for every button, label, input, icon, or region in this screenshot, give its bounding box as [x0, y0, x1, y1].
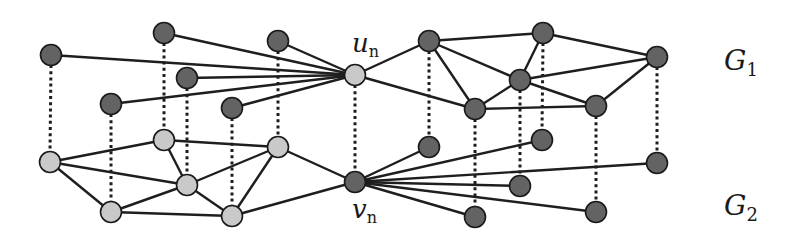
- g2-node-v-n: [345, 172, 366, 193]
- label-g1: G1: [724, 44, 758, 80]
- g1-node-l1: [586, 96, 607, 117]
- g2-node-h2: [532, 130, 553, 151]
- g2-node-j2: [510, 176, 531, 197]
- g1-node-e1: [101, 94, 122, 115]
- g1-node-j1: [510, 70, 531, 91]
- g2-node-a2: [40, 152, 61, 173]
- g1-edge-u_n-k1: [355, 75, 475, 109]
- g2-node-b2: [154, 130, 175, 151]
- g1-node-u-n: [345, 65, 366, 86]
- g2-edge-a2-d2: [50, 162, 187, 185]
- g1-node-c1: [268, 31, 289, 52]
- g2-node-g2: [419, 137, 440, 158]
- g2-edge-v_n-g2: [355, 147, 429, 182]
- g1-node-i1: [647, 47, 668, 68]
- g1-node-h1: [533, 23, 554, 44]
- g1-node-g1: [419, 31, 440, 52]
- label-v-n: vn: [352, 194, 377, 227]
- g2-edge-e2-f2: [111, 212, 232, 216]
- g1-node-k1: [465, 99, 486, 120]
- g1-edge-j1-i1: [520, 57, 657, 80]
- g1-node-d1: [177, 68, 198, 89]
- g1-edge-j1-l1: [520, 80, 596, 106]
- label-g2: G2: [724, 189, 758, 225]
- g2-edge-b2-c2: [164, 140, 278, 147]
- alignment-link-a1-a2: [50, 65, 51, 152]
- g2-edge-a2-b2: [50, 140, 164, 162]
- g1-edge-f1-u_n: [232, 75, 355, 108]
- g1-node-a1: [41, 45, 62, 66]
- g1-edge-k1-l1: [475, 106, 596, 109]
- graph-alignment-diagram: un vn G1 G2: [0, 0, 792, 245]
- g2-node-i2: [647, 153, 668, 174]
- g1-edge-h1-i1: [543, 33, 657, 57]
- g2-node-f2: [222, 206, 243, 227]
- g2-edge-d2-e2: [111, 185, 187, 212]
- g1-node-f1: [222, 98, 243, 119]
- g1-node-b1: [154, 23, 175, 44]
- g2-node-c2: [268, 137, 289, 158]
- g2-node-l2: [586, 202, 607, 223]
- g2-node-k2: [465, 207, 486, 228]
- g2-edge-v_n-c2: [278, 147, 355, 182]
- g1-edge-g1-h1: [429, 33, 543, 41]
- g2-node-e2: [101, 202, 122, 223]
- g2-node-d2: [177, 175, 198, 196]
- label-u-n: un: [352, 28, 379, 61]
- g1-edge-l1-i1: [596, 57, 657, 106]
